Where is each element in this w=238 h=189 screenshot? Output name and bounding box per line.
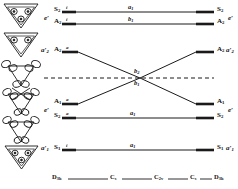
level-mark-row5: a [66,111,69,116]
axis-point-group-1: Cs [110,174,116,181]
group-label-right-row1: e′ [228,15,233,22]
crossing-label-upper: b2 [134,68,139,75]
correlation-lines [44,12,214,150]
pict-2 [4,33,38,57]
right-symmetry-row1: S2 [217,6,223,13]
group-label-right-row3: a′2 [226,47,234,54]
orbital-correlation-diagram: e′ a′2 e′ a′1 S2 A2 A2 A1 S2 S1 i i a a … [0,0,238,189]
group-label-left-row4: e′ [44,107,49,114]
left-symmetry-row6: S1 [54,144,60,151]
right-symmetry-row2: A2 [217,18,224,25]
group-label-right-row4: e′ [228,107,233,114]
level-mark-row4: a [66,97,69,102]
pict-5 [2,115,41,144]
middle-label-row6: a1 [130,142,135,149]
group-label-left-row3: a′2 [41,47,49,54]
left-symmetry-row1: S2 [54,6,60,13]
pict-4 [2,87,41,116]
group-label-left-row1: e′ [44,15,49,22]
level-mark-row2: i [66,17,67,22]
pict-3 [0,59,41,88]
right-symmetry-row4: A1 [217,98,224,105]
left-symmetry-row5: S2 [54,112,60,119]
left-symmetry-row3: A2 [54,46,61,53]
pict-6 [5,146,38,169]
right-symmetry-row3: A2 [217,46,224,53]
axis-point-group-2: C2v [154,174,163,181]
diagram-canvas [0,0,238,189]
crossing-label-lower: b1 [134,80,139,87]
axis-point-group-4: D3h [214,174,223,181]
middle-label-row5: a1 [130,110,135,117]
left-symmetry-row2: A2 [54,18,61,25]
level-mark-row1: i [66,5,67,10]
right-symmetry-row6: S1 [217,144,223,151]
group-label-right-row6: a′1 [226,145,234,152]
middle-label-row1: a1 [128,4,133,11]
level-mark-row3: a [66,45,69,50]
left-symmetry-row4: A1 [54,98,61,105]
orbital-pictograms [0,4,41,169]
axis-point-group-0: D3h [52,174,61,181]
right-symmetry-row5: S2 [217,112,223,119]
group-label-left-row6: a′1 [41,145,49,152]
axis-point-group-3: Cs [190,174,196,181]
level-mark-row6: i [66,143,67,148]
middle-label-row2: b1 [128,16,133,23]
pict-1 [4,4,38,28]
